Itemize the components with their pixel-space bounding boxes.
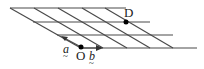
label-O: O <box>76 48 85 63</box>
point-D <box>124 20 129 25</box>
tilde-b: ~ <box>89 58 94 68</box>
diagonal-grid-lines <box>10 8 173 48</box>
tilde-a: ~ <box>63 51 68 61</box>
horizontal-grid-lines <box>10 8 197 48</box>
label-D: D <box>124 5 133 20</box>
vector-grid-diagram: D O a ~ b ~ <box>0 0 204 69</box>
